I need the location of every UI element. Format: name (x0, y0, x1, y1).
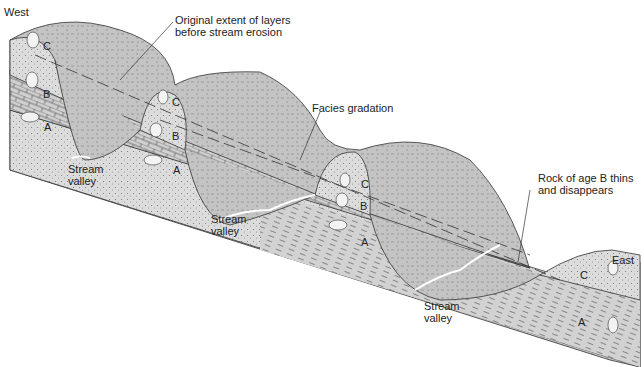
stream-valley-label-1: Stream valley (68, 163, 103, 187)
layer-letter-c: C (172, 96, 180, 108)
original-extent-label: Original extent of layers before stream … (175, 14, 291, 38)
layer-letter-b: B (172, 130, 179, 142)
layer-letter-c: C (361, 178, 369, 190)
layer-letter-a: A (361, 236, 368, 248)
layer-letter-c: C (43, 40, 51, 52)
layer-letter-b: B (360, 200, 367, 212)
west-label: West (4, 6, 29, 18)
stream-valley-label-2: Stream valley (211, 213, 246, 237)
facies-gradation-label: Facies gradation (312, 102, 393, 114)
layer-letter-b: B (43, 88, 50, 100)
rock-b-thins-label: Rock of age B thins and disappears (538, 172, 633, 196)
stream-valley-label-3: Stream valley (424, 300, 459, 324)
layer-letter-a: A (44, 121, 51, 133)
layer-letter-c: C (580, 269, 588, 281)
layer-letter-a: A (578, 316, 585, 328)
layer-letter-a: A (173, 164, 180, 176)
east-label: East (612, 254, 634, 266)
